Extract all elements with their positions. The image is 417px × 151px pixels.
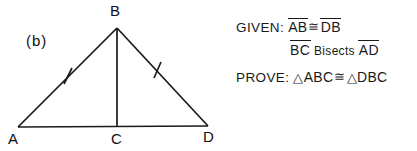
given-segment-ad: AD	[359, 43, 379, 57]
given-segment-db: DB	[321, 20, 341, 34]
tick-mark-ab-icon	[64, 68, 72, 84]
vertex-label-d: D	[203, 128, 214, 145]
segment-bd	[117, 28, 208, 126]
triangle-symbol-right-icon: △	[347, 71, 357, 84]
given-statement-line-2: BC Bisects AD	[236, 43, 417, 57]
prove-statement-line: PROVE: △ ABC ≅ △ DBC	[236, 70, 417, 85]
prove-triangle-dbc: DBC	[357, 70, 387, 84]
congruence-symbol-prove: ≅	[334, 70, 345, 83]
given-keyword: GIVEN:	[236, 21, 284, 35]
part-label: (b)	[26, 32, 47, 49]
prove-keyword: PROVE:	[236, 71, 289, 85]
vertex-label-c: C	[111, 130, 122, 147]
worksheet-figure-screen: (b) B A C D GIVEN: AB ≅ DB BC Bisects AD…	[0, 0, 417, 151]
given-statement-line-1: GIVEN: AB ≅ DB	[236, 20, 417, 35]
triangle-diagram-svg	[0, 0, 228, 151]
given-prove-panel: GIVEN: AB ≅ DB BC Bisects AD PROVE: △ AB…	[236, 20, 417, 84]
bisects-word: Bisects	[314, 45, 355, 57]
given-segment-bc: BC	[290, 43, 310, 57]
triangle-symbol-left-icon: △	[293, 71, 303, 84]
geometry-figure-panel: (b) B A C D	[0, 0, 228, 151]
congruence-symbol: ≅	[308, 20, 319, 33]
vertex-label-a: A	[8, 130, 19, 147]
prove-triangle-abc: ABC	[304, 70, 334, 84]
given-segment-ab: AB	[288, 20, 307, 34]
segment-ad	[18, 126, 208, 127]
vertex-label-b: B	[110, 2, 121, 19]
